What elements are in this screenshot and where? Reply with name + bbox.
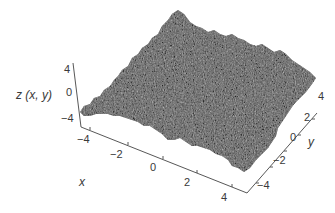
z-axis-line [73, 63, 81, 127]
y-tick-label: 4 [318, 91, 324, 102]
surface-mesh [70, 0, 330, 180]
x-tick-label: −4 [77, 134, 90, 145]
y-axis-title: y [308, 136, 314, 148]
x-tick-label: 2 [184, 177, 190, 188]
z-tick-label: 4 [64, 64, 70, 75]
z-axis-title: z (x, y) [16, 89, 52, 101]
y-tick-label: 2 [304, 112, 310, 123]
x-tick-label: −2 [110, 149, 123, 160]
y-tick-label: −4 [257, 180, 270, 191]
z-tick-label: −4 [61, 113, 74, 124]
surface-plot [0, 0, 335, 213]
x-axis-title: x [79, 176, 85, 188]
z-tick-label: 0 [66, 87, 72, 98]
y-tick-label: 0 [290, 132, 296, 143]
x-tick-label: 0 [150, 162, 156, 173]
x-tick-label: 4 [221, 192, 227, 203]
y-tick-label: −2 [273, 155, 286, 166]
